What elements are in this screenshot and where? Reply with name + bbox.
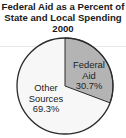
- label-federal-aid-value: 30.7%: [70, 81, 108, 92]
- label-federal-aid-line-1: Federal: [70, 60, 108, 71]
- label-other-sources-value: 69.3%: [24, 104, 68, 115]
- label-other-sources-line-1: Other: [24, 83, 68, 94]
- label-federal-aid: Federal Aid 30.7%: [70, 60, 108, 92]
- label-other-sources: Other Sources 69.3%: [24, 83, 68, 115]
